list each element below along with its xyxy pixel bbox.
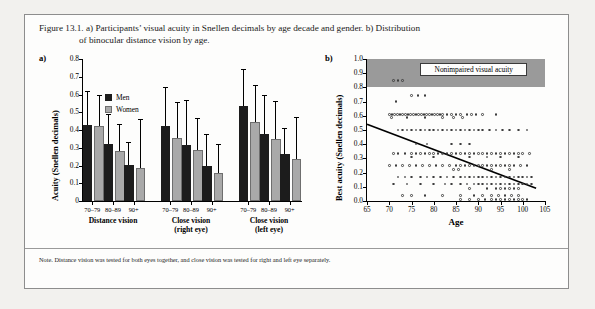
scatter-point — [401, 194, 404, 197]
scatter-point — [508, 152, 511, 155]
error-bar-cap — [97, 95, 102, 96]
error-bar — [128, 142, 129, 165]
scatter-point — [419, 152, 422, 155]
caption-line-1: Figure 13.1. a) Participants’ visual acu… — [39, 23, 420, 33]
bar-women-7079 — [250, 122, 260, 201]
panel-b-x-tick — [434, 202, 435, 205]
scatter-point — [490, 164, 493, 167]
bar-men-8089 — [182, 145, 192, 201]
panel-b-y-tick — [363, 116, 367, 117]
scatter-point — [521, 176, 524, 179]
panel-a-x-tick — [212, 202, 213, 205]
panel-a-y-tick — [79, 148, 83, 149]
scatter-point — [510, 194, 513, 197]
panel-b-x-axis-title: Age — [367, 217, 545, 227]
scatter-point — [530, 176, 533, 179]
scatter-point — [395, 100, 398, 103]
panel-b-y-tick — [363, 187, 367, 188]
error-bar — [275, 101, 276, 139]
figure-caption: Figure 13.1. a) Participants’ visual acu… — [39, 22, 559, 47]
scatter-point — [388, 164, 391, 167]
scatter-point — [499, 156, 502, 159]
scatter-point — [490, 176, 493, 179]
error-bar — [108, 114, 109, 144]
scatter-point — [517, 187, 520, 190]
scatter-point — [468, 176, 471, 179]
scatter-point — [481, 113, 484, 116]
panel-b-x-tick — [478, 202, 479, 205]
scatter-point — [441, 164, 444, 167]
scatter-point — [499, 176, 502, 179]
error-bar-cap — [282, 128, 287, 129]
error-bar — [284, 128, 285, 154]
scatter-point — [424, 94, 427, 97]
bar-women-90+ — [136, 168, 146, 201]
error-bar — [264, 95, 265, 135]
scatter-point — [464, 152, 467, 155]
panel-b-y-tick — [363, 87, 367, 88]
legend-swatch-men — [105, 94, 112, 101]
bar-men-90+ — [124, 165, 134, 201]
scatter-point — [519, 164, 522, 167]
scatter-point — [468, 164, 471, 167]
group-sublabel: (right eye) — [146, 225, 236, 234]
panel-a-x-tick-label: 90+ — [272, 206, 308, 213]
scatter-point — [517, 194, 520, 197]
panel-a-x-tick — [113, 202, 114, 205]
scatter-point — [441, 116, 444, 119]
scatter-point — [517, 183, 520, 186]
scatter-point — [410, 94, 413, 97]
panel-a-y-tick — [79, 183, 83, 184]
panel-a-y-tick — [79, 112, 83, 113]
error-bar — [243, 69, 244, 106]
panel-b-y-tick — [363, 73, 367, 74]
scatter-point — [415, 152, 418, 155]
scatter-point — [470, 113, 473, 116]
figure-container: Figure 13.1. a) Participants’ visual acu… — [24, 14, 569, 289]
scatter-point — [499, 183, 502, 186]
panel-b-y-tick-label: 1.0 — [337, 54, 363, 63]
error-bar-cap — [163, 87, 168, 88]
scatter-point — [497, 194, 500, 197]
scatter-point — [490, 168, 493, 171]
scatter-point — [495, 187, 498, 190]
scatter-point — [459, 176, 462, 179]
panel-a-x-tick — [248, 202, 249, 205]
panel-b-y-tick — [363, 59, 367, 60]
panel-a-y-tick — [79, 59, 83, 60]
scatter-point — [481, 176, 484, 179]
scatter-point — [424, 152, 427, 155]
error-bar — [197, 118, 198, 150]
error-bar-cap — [262, 95, 267, 96]
note-divider — [25, 248, 568, 249]
scatter-point — [455, 113, 458, 116]
panel-a-y-tick — [79, 166, 83, 167]
error-bar — [206, 134, 207, 165]
scatter-point — [508, 176, 511, 179]
scatter-point — [421, 164, 424, 167]
scatter-point — [435, 164, 438, 167]
scatter-point — [468, 152, 471, 155]
scatter-point — [455, 152, 458, 155]
error-bar — [255, 85, 256, 122]
scatter-point — [459, 164, 462, 167]
error-bar — [99, 95, 100, 127]
error-bar-cap — [195, 118, 200, 119]
bar-women-90+ — [292, 159, 302, 201]
scatter-point — [464, 164, 467, 167]
scatter-point — [504, 152, 507, 155]
scatter-point — [513, 164, 516, 167]
bar-men-7079 — [239, 106, 249, 201]
error-bar-cap — [85, 91, 90, 92]
scatter-point — [481, 194, 484, 197]
scatter-point — [395, 164, 398, 167]
scatter-point — [406, 116, 409, 119]
legend-item-women: Women — [105, 105, 139, 114]
bar-women-90+ — [214, 173, 224, 201]
error-bar-cap — [138, 119, 143, 120]
scatter-point — [432, 152, 435, 155]
scatter-point — [468, 187, 471, 190]
scatter-point — [419, 183, 422, 186]
error-bar — [296, 117, 297, 160]
scatter-point — [401, 79, 404, 82]
